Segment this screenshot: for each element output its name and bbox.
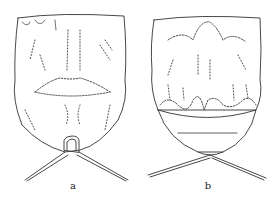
specimen-b-drawing: [138, 0, 276, 200]
panel-label-a: a: [63, 180, 83, 191]
panel-a: a: [0, 0, 138, 200]
specimen-a-drawing: [0, 0, 138, 200]
panel-b: b: [138, 0, 276, 200]
panel-label-b: b: [198, 180, 218, 191]
